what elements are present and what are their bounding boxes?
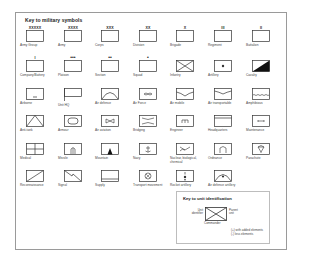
- symbol-battalion: IIBattalion: [252, 25, 290, 52]
- symbol-ordnance: Ordnance: [214, 138, 252, 165]
- symbol-label: Engineer: [170, 129, 200, 133]
- symbol-label: Medical: [20, 157, 50, 161]
- unit-example-infantry-icon: [205, 207, 227, 221]
- symbol-missile: Missile: [64, 138, 102, 165]
- symbol-division: XXDivision: [139, 25, 177, 52]
- symbol-air-defence: Air defence: [101, 83, 139, 110]
- army-group-icon: [26, 30, 44, 44]
- parent-unit-label: Parent unit: [229, 209, 243, 216]
- symbol-air-defence-artillery: Air defence artillery: [214, 165, 252, 192]
- symbol-label: Division: [133, 44, 163, 48]
- symbol-label: Transport movement: [133, 184, 163, 188]
- symbol-label: Artillery: [208, 74, 238, 78]
- corps-icon: [101, 30, 119, 44]
- echelon-mark: •: [139, 55, 157, 59]
- symbol-label: Corps: [95, 44, 125, 48]
- amphibious-icon: [252, 88, 270, 102]
- symbol-bridging: Bridging: [139, 110, 177, 137]
- symbol-label: Company/Battery: [20, 74, 50, 78]
- symbol-anti-tank: Anti-tank: [26, 110, 64, 137]
- symbol-label: Amphibious: [246, 102, 276, 106]
- symbol-engineer: Engineer: [176, 110, 214, 137]
- symbol-label: Nuclear, biological, chemical: [170, 157, 200, 164]
- echelon-mark: X: [176, 26, 194, 30]
- squad-icon: [139, 60, 157, 74]
- symbol-label: Bridging: [133, 129, 163, 133]
- symbol-label: Ordnance: [208, 157, 238, 161]
- signal-icon: [64, 170, 82, 184]
- missile-icon: [64, 143, 82, 157]
- division-icon: [139, 30, 157, 44]
- symbol-supply: Supply: [101, 165, 139, 192]
- ordnance-icon: [214, 143, 232, 157]
- symbol-regiment: IIIRegiment: [214, 25, 252, 52]
- navy-icon: [139, 143, 157, 157]
- unit-key-title: Key to unit identification: [183, 196, 232, 201]
- engineer-icon: [176, 115, 194, 129]
- symbol-air-mobile: Air mobile: [176, 83, 214, 110]
- army-icon: [64, 30, 82, 44]
- anti-tank-icon: [26, 115, 44, 129]
- symbol-label: Air defence: [95, 102, 125, 106]
- symbol-label: Squad: [133, 74, 163, 78]
- unit-identifier-label: Unit identifier: [189, 209, 203, 216]
- symbol-artillery: Artillery: [214, 55, 252, 82]
- symbol-company: ICompany/Battery: [26, 55, 64, 82]
- symbol-transport-movement: Transport movement: [139, 165, 177, 192]
- symbol-label: Missile: [58, 157, 88, 161]
- echelon-mark: XXXX: [64, 26, 82, 30]
- symbol-label: Air defence artillery: [208, 184, 238, 188]
- symbol-mountain: Mountain: [101, 138, 139, 165]
- symbol-air-transportable: Air transportable: [214, 83, 252, 110]
- symbol-label: Mountain: [95, 157, 125, 161]
- symbol-army: XXXXArmy: [64, 25, 102, 52]
- symbol-label: Air Force: [133, 102, 163, 106]
- symbol-headquarters: Headquarters: [214, 110, 252, 137]
- symbol-army-group: XXXXXArmy Group: [26, 25, 64, 52]
- echelon-mark: •••: [64, 55, 82, 59]
- rocket-artillery-icon: [176, 170, 194, 184]
- symbol-label: Rocket artillery: [170, 184, 200, 188]
- symbol-amphibious: Amphibious: [252, 83, 290, 110]
- nbc-icon: [176, 143, 194, 157]
- symbol-label: Platoon: [58, 74, 88, 78]
- battalion-icon: [252, 30, 270, 44]
- symbol-label: Armour: [58, 129, 88, 133]
- symbol-label: Signal: [58, 184, 88, 188]
- cavalry-icon: [252, 60, 270, 74]
- symbol-label: Navy: [133, 157, 163, 161]
- air-aviation-icon: [101, 115, 119, 129]
- note-less-elements: (-) less elements: [231, 233, 253, 236]
- symbol-label: Unit HQ: [58, 104, 88, 108]
- airborne-icon: [26, 88, 44, 102]
- symbol-label: Reconnaissance: [20, 184, 50, 188]
- air-mobile-icon: [176, 88, 194, 102]
- symbol-medical: Medical: [26, 138, 64, 165]
- echelon-mark: XX: [139, 26, 157, 30]
- medical-icon: [26, 143, 44, 157]
- echelon-mark: II: [252, 26, 270, 30]
- air-force-icon: [139, 88, 157, 102]
- symbol-parachute: Parachute: [252, 138, 290, 165]
- air-transportable-icon: [214, 88, 232, 102]
- symbol-rocket-artillery: Rocket artillery: [176, 165, 214, 192]
- transport-movement-icon: [139, 170, 157, 184]
- symbol-label: Infantry: [170, 74, 200, 78]
- echelon-mark: ••: [101, 55, 119, 59]
- symbol-label: Air transportable: [208, 102, 238, 106]
- symbol-cavalry: Cavalry: [252, 55, 290, 82]
- reconnaissance-icon: [26, 170, 44, 184]
- key-title: Key to military symbols: [25, 17, 82, 23]
- symbol-label: Anti-tank: [20, 129, 50, 133]
- symbol-label: Maintenance: [246, 129, 276, 133]
- symbol-brigade: XBrigade: [176, 25, 214, 52]
- unit-identification-key: Key to unit identification Unit identifi…: [176, 191, 270, 244]
- symbol-label: Regiment: [208, 44, 238, 48]
- commander-label: Commander: [204, 222, 221, 225]
- symbol-label: Cavalry: [246, 74, 276, 78]
- parachute-icon: [252, 143, 270, 157]
- symbol-label: Section: [95, 74, 125, 78]
- echelon-mark: I: [26, 56, 44, 60]
- echelon-mark: XXXXX: [26, 26, 44, 30]
- symbol-corps: XXXCorps: [101, 25, 139, 52]
